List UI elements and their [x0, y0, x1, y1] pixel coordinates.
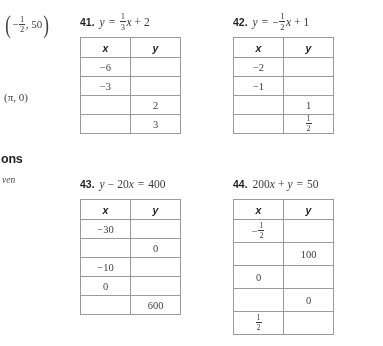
cell-y-blank[interactable]	[131, 258, 181, 277]
equation-coefficient: 200	[253, 178, 270, 190]
equals-sign: =	[109, 16, 116, 28]
table-row: 3	[81, 115, 181, 134]
cell-x-blank[interactable]	[81, 296, 131, 315]
table-row: 0	[234, 289, 334, 312]
equation-lhs: y	[100, 16, 105, 28]
exercise-44-equation: 200 x + y = 50	[253, 178, 319, 190]
fraction-one-half: 1 2	[256, 314, 262, 332]
exercise-41-table: x y −6 −3 2 3	[80, 37, 181, 134]
table-header-row: x y	[81, 200, 181, 220]
cell-x-blank[interactable]	[81, 115, 131, 134]
table-row: 0	[234, 266, 334, 289]
fraction-numerator: 1	[120, 12, 126, 21]
cell-y[interactable]: 3	[131, 115, 181, 134]
cell-y-blank[interactable]	[284, 58, 334, 77]
cell-x[interactable]: −6	[81, 58, 131, 77]
column-header-y: y	[131, 38, 181, 58]
cell-y-blank[interactable]	[131, 58, 181, 77]
cell-y-blank[interactable]	[284, 77, 334, 96]
equation-variable: x	[286, 16, 291, 28]
negative-sign: −	[252, 226, 258, 237]
margin-section-heading: ons	[1, 152, 23, 166]
equation-variable: x	[270, 178, 275, 190]
table-row: −10	[81, 258, 181, 277]
fraction-one-half: 1 2	[19, 15, 25, 34]
equation-rhs: 50	[307, 178, 319, 190]
cell-x-blank[interactable]	[234, 289, 284, 312]
exercise-43-equation: y − 20 x = 400	[100, 178, 166, 190]
cell-y[interactable]: 2	[131, 96, 181, 115]
equation-variable: x	[126, 16, 131, 28]
equation-coefficient: 20	[117, 178, 129, 190]
cell-x-fraction[interactable]: 1 2	[234, 312, 284, 335]
column-header-y: y	[284, 200, 334, 220]
table-header-row: x y	[81, 38, 181, 58]
table-row: 0	[81, 277, 181, 296]
exercise-41-heading: 41. y = 1 3 x + 2	[80, 14, 181, 30]
table-header-row: x y	[234, 38, 334, 58]
left-paren: (	[5, 14, 11, 35]
exercise-43-heading: 43. y − 20 x = 400	[80, 176, 181, 192]
equation-lhs: y	[287, 178, 292, 190]
table-row: 100	[234, 243, 334, 266]
table-row: 600	[81, 296, 181, 315]
equals-sign: =	[297, 178, 304, 190]
exercise-44: 44. 200 x + y = 50 x y − 1	[233, 176, 334, 335]
fraction-denominator: 3	[120, 21, 126, 31]
cell-x-blank[interactable]	[234, 115, 284, 134]
equation-rhs: 400	[148, 178, 165, 190]
coordinate-pair: ( − 1 2 , 50 )	[4, 14, 51, 35]
margin-section-subheading: ven	[2, 175, 15, 185]
cell-x[interactable]: 0	[234, 266, 284, 289]
cell-x-fraction[interactable]: − 1 2	[234, 220, 284, 243]
right-paren: )	[44, 14, 50, 35]
equation-variable: x	[129, 178, 134, 190]
equals-sign: =	[138, 178, 145, 190]
cell-x[interactable]: −2	[234, 58, 284, 77]
cell-y-fraction[interactable]: 1 2	[284, 115, 334, 134]
negative-sign: −	[272, 16, 279, 28]
cell-x-blank[interactable]	[234, 96, 284, 115]
exercise-44-heading: 44. 200 x + y = 50	[233, 176, 334, 192]
fraction-numerator: 1	[279, 12, 285, 21]
cell-y[interactable]: 600	[131, 296, 181, 315]
cell-y-blank[interactable]	[284, 312, 334, 335]
cell-x[interactable]: −10	[81, 258, 131, 277]
fraction-denominator: 2	[258, 230, 264, 240]
coordinate-y-value: 50	[31, 19, 42, 30]
table-row: −30	[81, 220, 181, 239]
cell-x-blank[interactable]	[81, 96, 131, 115]
column-header-x: x	[234, 200, 284, 220]
fraction-denominator: 2	[279, 21, 285, 31]
cell-y[interactable]: 0	[131, 239, 181, 258]
equation-operator: +	[135, 16, 142, 28]
cell-y-blank[interactable]	[131, 77, 181, 96]
cell-y[interactable]: 100	[284, 243, 334, 266]
table-row: −6	[81, 58, 181, 77]
cell-y[interactable]: 0	[284, 289, 334, 312]
table-row: 1 2	[234, 115, 334, 134]
negative-sign: −	[12, 19, 18, 30]
cell-x[interactable]: −30	[81, 220, 131, 239]
cell-y-blank[interactable]	[284, 266, 334, 289]
equals-sign: =	[262, 16, 269, 28]
column-header-y: y	[284, 38, 334, 58]
exercise-42: 42. y = − 1 2 x + 1 x y −2	[233, 14, 334, 134]
fraction-numerator: 1	[256, 314, 262, 323]
cell-y-blank[interactable]	[131, 277, 181, 296]
negative-fraction: − 1 2	[252, 222, 265, 240]
exercise-41-equation: y = 1 3 x + 2	[100, 13, 150, 32]
margin-answer-coordinate-pair: ( − 1 2 , 50 )	[4, 14, 51, 35]
cell-y-blank[interactable]	[284, 220, 334, 243]
cell-y-blank[interactable]	[131, 220, 181, 239]
cell-x[interactable]: −1	[234, 77, 284, 96]
cell-x-blank[interactable]	[81, 239, 131, 258]
cell-y[interactable]: 1	[284, 96, 334, 115]
cell-x[interactable]: −3	[81, 77, 131, 96]
cell-x-blank[interactable]	[234, 243, 284, 266]
equation-lhs: y	[100, 178, 105, 190]
textbook-page: ( − 1 2 , 50 ) (π, 0) ons ven 41. y	[0, 0, 383, 346]
exercise-42-number: 42.	[233, 16, 248, 28]
cell-x[interactable]: 0	[81, 277, 131, 296]
equation-lhs: y	[253, 16, 258, 28]
